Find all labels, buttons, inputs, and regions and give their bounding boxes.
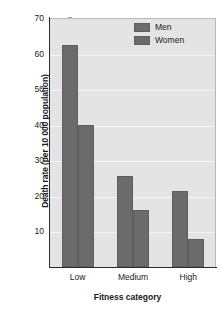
y-axis-tick-label: 20 — [35, 191, 44, 201]
legend-label: Women — [155, 35, 184, 45]
bar-group-container — [50, 19, 215, 267]
x-axis-category-label: Low — [70, 272, 86, 282]
bar-women-medium — [133, 210, 149, 267]
bar-chart-figure: Death rate (per 10 000 population) 10203… — [0, 0, 221, 319]
y-axis-tick-label: 70 — [35, 13, 44, 23]
x-axis-category-label: Medium — [118, 272, 148, 282]
legend-swatch-men — [134, 23, 150, 32]
y-axis-tick-labels: 10203040506070 — [22, 18, 44, 267]
y-axis-tick-label: 60 — [35, 49, 44, 59]
legend-swatch-women — [134, 36, 150, 45]
y-axis-tick-label: 40 — [35, 120, 44, 130]
legend-item-men: Men — [134, 22, 184, 32]
bar-men-high — [172, 191, 188, 267]
bar-women-high — [188, 239, 204, 267]
plot-area — [50, 18, 216, 267]
legend: MenWomen — [134, 22, 184, 45]
legend-label: Men — [155, 22, 172, 32]
y-axis-tick-label: 10 — [35, 226, 44, 236]
y-axis-tick-label: 50 — [35, 84, 44, 94]
legend-item-women: Women — [134, 35, 184, 45]
x-axis-category-label: High — [180, 272, 197, 282]
x-axis-line — [49, 267, 217, 268]
y-axis-tick-label: 30 — [35, 155, 44, 165]
bar-women-low — [78, 125, 94, 267]
bar-men-medium — [117, 176, 133, 267]
x-axis-title: Fitness category — [0, 292, 221, 302]
bar-men-low — [62, 45, 78, 267]
